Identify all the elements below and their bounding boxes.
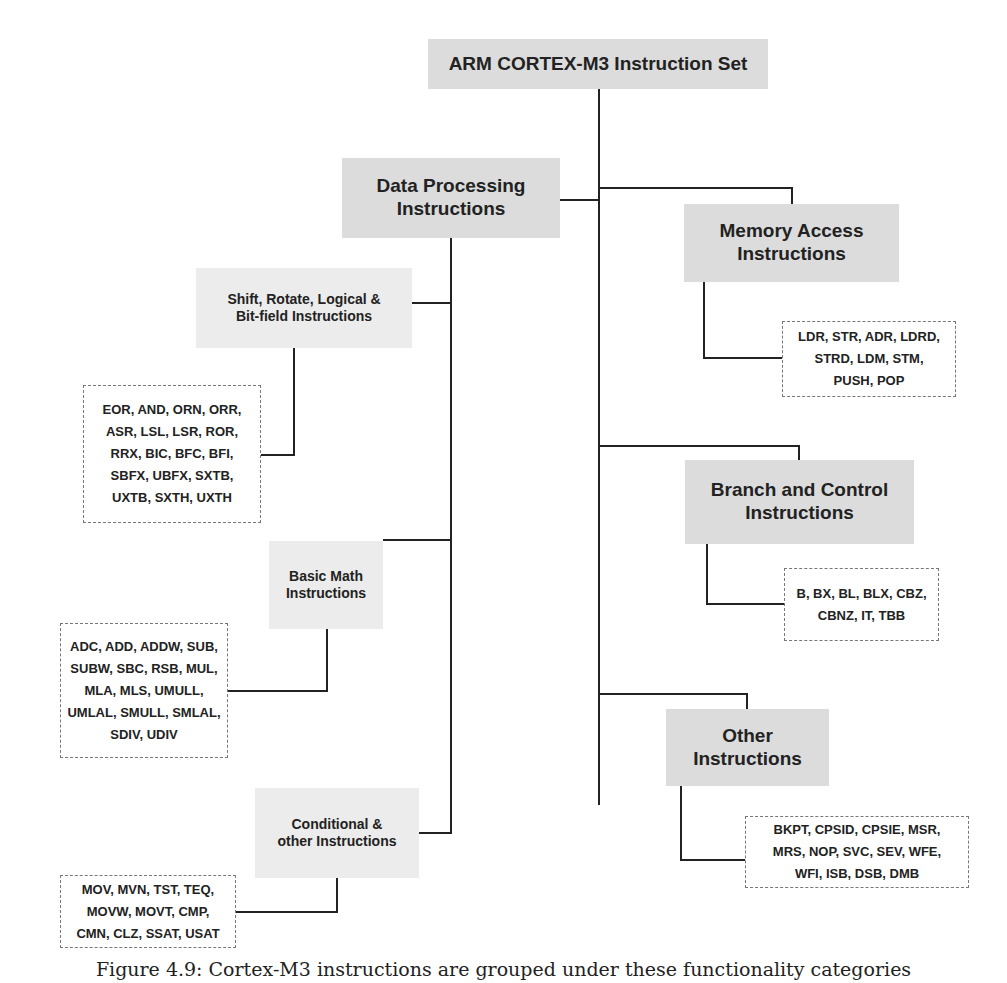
connector xyxy=(598,189,600,805)
connector xyxy=(293,348,295,455)
conditional-node: Conditional & other Instructions xyxy=(255,788,419,878)
memory-access-instructions: LDR, STR, ADR, LDRD, STRD, LDM, STM, PUS… xyxy=(782,321,956,397)
connector xyxy=(599,187,792,189)
connector xyxy=(326,629,328,691)
connector xyxy=(798,445,800,460)
basic-math-node: Basic Math Instructions xyxy=(269,541,383,629)
connector xyxy=(236,911,338,913)
connector xyxy=(383,539,451,541)
connector xyxy=(746,693,748,709)
connector xyxy=(680,859,745,861)
connector xyxy=(791,187,793,204)
conditional-instructions: MOV, MVN, TST, TEQ, MOVW, MOVT, CMP, CMN… xyxy=(60,875,236,948)
branch-control-node: Branch and Control Instructions xyxy=(685,460,914,544)
shift-rotate-node: Shift, Rotate, Logical & Bit-field Instr… xyxy=(196,268,412,348)
connector xyxy=(703,357,782,359)
basic-math-instructions: ADC, ADD, ADDW, SUB, SUBW, SBC, RSB, MUL… xyxy=(60,623,228,758)
other-node: Other Instructions xyxy=(666,709,829,786)
connector xyxy=(336,878,338,912)
connector xyxy=(680,786,682,860)
connector xyxy=(706,544,708,604)
connector xyxy=(450,238,452,834)
shift-rotate-instructions: EOR, AND, ORN, ORR, ASR, LSL, LSR, ROR, … xyxy=(83,385,261,523)
figure-caption: Figure 4.9: Cortex-M3 instructions are g… xyxy=(0,958,1007,980)
connector xyxy=(419,832,451,834)
connector xyxy=(261,454,295,456)
connector xyxy=(412,302,451,304)
other-instructions: BKPT, CPSID, CPSIE, MSR, MRS, NOP, SVC, … xyxy=(745,816,969,888)
root-node: ARM CORTEX-M3 Instruction Set xyxy=(428,39,768,89)
connector xyxy=(228,690,328,692)
branch-control-instructions: B, BX, BL, BLX, CBZ, CBNZ, IT, TBB xyxy=(784,568,939,641)
connector xyxy=(560,199,599,201)
data-processing-node: Data Processing Instructions xyxy=(342,158,560,238)
connector xyxy=(703,282,705,358)
memory-access-node: Memory Access Instructions xyxy=(684,204,899,282)
connector xyxy=(599,445,799,447)
connector xyxy=(599,693,747,695)
connector xyxy=(706,603,784,605)
